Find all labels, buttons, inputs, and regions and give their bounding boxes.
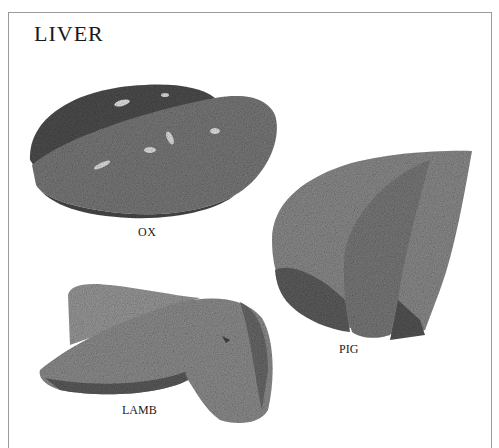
ox-liver-image bbox=[30, 85, 277, 219]
pig-liver-image bbox=[272, 151, 472, 340]
pig-label: PIG bbox=[339, 342, 359, 356]
ox-label: OX bbox=[138, 225, 156, 239]
lamb-label: LAMB bbox=[122, 403, 157, 417]
